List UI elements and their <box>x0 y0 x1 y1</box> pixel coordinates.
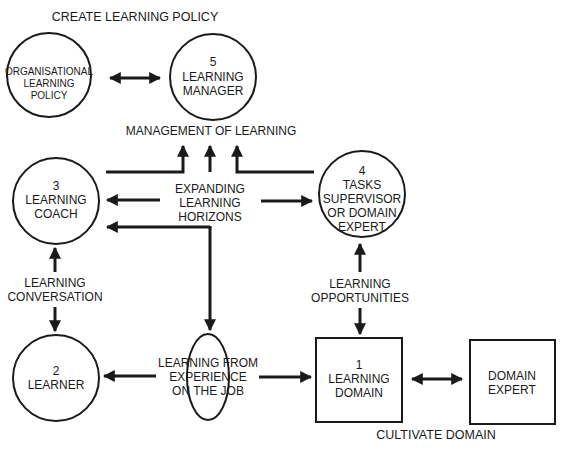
node-tasks-supervisor: 4 TASKS SUPERVISOR OR DOMAIN EXPERT <box>319 151 405 237</box>
node-label-line: SUPERVISOR <box>323 192 402 206</box>
node-number: 1 <box>356 358 363 372</box>
node-learning-manager: 5 LEARNING MANAGER <box>170 34 256 120</box>
label-line: OPPORTUNITIES <box>311 291 409 305</box>
node-label-line: EXPERT <box>488 383 536 397</box>
node-label-line: OR DOMAIN <box>327 206 396 220</box>
label-line: CONVERSATION <box>7 290 102 304</box>
arrow-coach-to-management <box>106 146 183 172</box>
label-line: LEARNING <box>329 277 390 291</box>
label-learning-opportunities: LEARNING OPPORTUNITIES <box>311 277 409 305</box>
node-label-line: DOMAIN <box>488 369 536 383</box>
node-number: 2 <box>53 364 60 378</box>
node-label-line: EXPERT <box>338 220 386 234</box>
node-label-line: LEARNING <box>182 70 243 84</box>
label-management-of-learning: MANAGEMENT OF LEARNING <box>126 124 296 138</box>
node-label-line: LEARNING <box>23 78 74 89</box>
label-line: LEARNING <box>24 276 85 290</box>
node-label-line: COACH <box>34 207 77 221</box>
node-label-line: DOMAIN <box>335 386 383 400</box>
arrow-supervisor-to-management <box>237 146 314 172</box>
arrow-experience-to-coach <box>107 226 210 227</box>
label-line: ON THE JOB <box>172 384 244 398</box>
node-learning-from-experience: LEARNING FROM EXPERIENCE ON THE JOB <box>158 334 258 420</box>
node-label-line: MANAGER <box>183 84 244 98</box>
label-line: LEARNING <box>179 196 240 210</box>
node-number: 4 <box>359 164 366 178</box>
node-organisational-learning-policy: ORGANISATIONAL LEARNING POLICY <box>5 33 94 117</box>
node-label-line: POLICY <box>31 90 68 101</box>
node-label-line: TASKS <box>343 178 381 192</box>
diagram-canvas: CREATE LEARNING POLICY ORGANISATIONAL LE… <box>0 0 569 454</box>
label-expanding-learning-horizons: EXPANDING LEARNING HORIZONS <box>175 182 245 224</box>
node-learner: 2 LEARNER <box>13 335 99 421</box>
node-learning-domain: 1 LEARNING DOMAIN <box>316 338 402 422</box>
node-label-line: ORGANISATIONAL <box>5 66 94 77</box>
label-learning-conversation: LEARNING CONVERSATION <box>7 276 102 304</box>
node-label-line: LEARNING <box>25 193 86 207</box>
label-line: EXPANDING <box>175 182 245 196</box>
title-cultivate-domain: CULTIVATE DOMAIN <box>376 428 495 442</box>
node-learning-coach: 3 LEARNING COACH <box>13 158 99 244</box>
label-line: EXPERIENCE <box>169 370 246 384</box>
node-domain-expert: DOMAIN EXPERT <box>470 340 555 424</box>
label-line: HORIZONS <box>178 210 241 224</box>
label-line: LEARNING FROM <box>158 356 258 370</box>
node-number: 5 <box>210 55 217 69</box>
learning-process-diagram: CREATE LEARNING POLICY ORGANISATIONAL LE… <box>0 0 569 454</box>
node-number: 3 <box>53 179 60 193</box>
node-label-line: LEARNER <box>28 378 85 392</box>
node-label-line: LEARNING <box>328 372 389 386</box>
title-create-learning-policy: CREATE LEARNING POLICY <box>52 10 219 24</box>
